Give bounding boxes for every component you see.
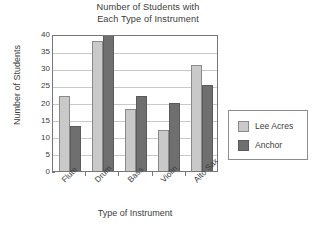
legend-entry-anchor: Anchor <box>238 140 282 151</box>
bars-layer <box>53 36 217 171</box>
y-tick-label: 5 <box>34 151 50 159</box>
y-tick-label: 0 <box>34 168 50 176</box>
bar-violin-anchor <box>169 103 180 172</box>
bar-drum-anchor <box>103 35 114 171</box>
legend-swatch-lee-acres-icon <box>238 121 249 132</box>
x-axis-label: Type of Instrument <box>52 208 218 218</box>
bar-alto-sax-lee-acres <box>191 65 202 171</box>
y-tick-label: 25 <box>34 82 50 90</box>
x-tick-mark <box>118 172 119 176</box>
y-tick-label: 40 <box>34 31 50 39</box>
y-tick-label: 15 <box>34 117 50 125</box>
bar-bass-lee-acres <box>125 109 136 171</box>
bar-flute-anchor <box>70 126 81 171</box>
legend-label-anchor: Anchor <box>255 141 282 150</box>
bar-drum-lee-acres <box>92 41 103 171</box>
y-tick-mark <box>52 172 55 173</box>
y-tick-label: 30 <box>34 65 50 73</box>
bar-flute-lee-acres <box>59 96 70 171</box>
chart-title-line-2: Each Type of Instrument <box>58 14 238 26</box>
y-tick-label: 10 <box>34 134 50 142</box>
legend-swatch-anchor-icon <box>238 140 249 151</box>
chart-title: Number of Students with Each Type of Ins… <box>58 2 238 25</box>
x-tick-mark <box>152 172 153 176</box>
chart-title-line-1: Number of Students with <box>58 2 238 14</box>
legend-entry-lee-acres: Lee Acres <box>238 121 293 132</box>
y-axis-label: Number of Students <box>12 30 22 140</box>
plot-area <box>52 35 218 172</box>
bar-violin-lee-acres <box>158 130 169 171</box>
legend: Lee Acres Anchor <box>228 110 308 160</box>
bar-bass-anchor <box>136 96 147 171</box>
y-axis-tick-labels: 0510152025303540 <box>30 35 50 172</box>
y-tick-label: 35 <box>34 48 50 56</box>
x-tick-mark <box>85 172 86 176</box>
y-tick-label: 20 <box>34 100 50 108</box>
x-tick-mark <box>185 172 186 176</box>
legend-label-lee-acres: Lee Acres <box>255 122 293 131</box>
bar-chart: Number of Students with Each Type of Ins… <box>0 0 319 231</box>
